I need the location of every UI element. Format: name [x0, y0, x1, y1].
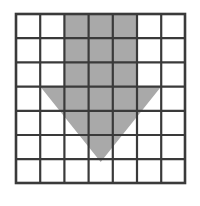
grid-cell-r5-c2: [40, 111, 64, 135]
grid-cell-r3-c2: [40, 62, 64, 86]
grid-cell-r2-c7: [161, 38, 185, 62]
grid-cell-r5-c1: [16, 111, 40, 135]
grid-cell-r7-c6: [137, 159, 161, 183]
grid-cell-r3-c1: [16, 62, 40, 86]
grid-cell-r1-c7: [161, 14, 185, 38]
grid-cell-r4-c7: [161, 87, 185, 111]
grid-cell-r2-c6: [137, 38, 161, 62]
grid-cell-r1-c2: [40, 14, 64, 38]
grid-cell-r3-c6: [137, 62, 161, 86]
grid-cell-r7-c1: [16, 159, 40, 183]
grid-cell-r2-c2: [40, 38, 64, 62]
grid-cell-r1-c1: [16, 14, 40, 38]
grid-cell-r3-c7: [161, 62, 185, 86]
grid-cell-r1-c6: [137, 14, 161, 38]
grid-cell-r5-c6: [137, 111, 161, 135]
grid-cell-r6-c2: [40, 135, 64, 159]
grid-cell-r2-c1: [16, 38, 40, 62]
grid-cell-r4-c1: [16, 87, 40, 111]
figure-root: [0, 0, 200, 206]
grid-cell-r7-c3: [64, 159, 88, 183]
grid-cell-r6-c6: [137, 135, 161, 159]
grid-cell-r7-c5: [113, 159, 137, 183]
grid-cell-r6-c7: [161, 135, 185, 159]
grid-cell-r7-c4: [89, 159, 113, 183]
grid-cell-r7-c7: [161, 159, 185, 183]
grid-cell-r6-c1: [16, 135, 40, 159]
grid-cell-r5-c7: [161, 111, 185, 135]
grid-diagram: [0, 0, 200, 206]
grid-cell-r7-c2: [40, 159, 64, 183]
